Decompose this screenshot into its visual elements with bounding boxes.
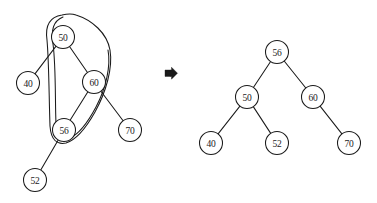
node-label: 50 — [58, 33, 68, 43]
tree-edge — [253, 107, 270, 134]
tree-node-40: 40 — [200, 132, 223, 155]
right-tree-nodes: 565060405270 — [200, 41, 361, 155]
tree-node-70: 70 — [338, 132, 361, 155]
right-tree: 565060405270 — [200, 41, 361, 155]
arrow-right-hollow-icon — [165, 67, 178, 79]
left-tree: 504060567052 — [17, 14, 142, 192]
tree-edge — [70, 92, 88, 121]
tree-node-60: 60 — [302, 86, 325, 109]
tree-node-50: 50 — [52, 26, 75, 49]
tree-edge — [35, 46, 56, 74]
tree-node-50: 50 — [236, 86, 259, 109]
tree-node-70: 70 — [119, 119, 142, 142]
node-label: 56 — [59, 126, 69, 136]
tree-node-60: 60 — [83, 71, 106, 94]
tree-edge — [41, 140, 58, 170]
tree-edge — [253, 62, 270, 88]
node-label: 52 — [272, 139, 282, 149]
node-label: 70 — [344, 139, 354, 149]
tree-edge — [70, 46, 88, 72]
tree-node-56: 56 — [53, 119, 76, 142]
node-label: 70 — [125, 126, 135, 136]
tree-edge — [101, 91, 123, 121]
left-tree-nodes: 504060567052 — [17, 26, 142, 192]
node-label: 56 — [272, 48, 282, 58]
tree-edge — [320, 106, 342, 134]
node-label: 52 — [30, 176, 40, 186]
tree-node-56: 56 — [266, 41, 289, 64]
diagram-canvas: 504060567052 565060405270 — [0, 0, 377, 203]
tree-node-40: 40 — [17, 72, 40, 95]
node-label: 40 — [206, 139, 216, 149]
node-label: 60 — [308, 93, 318, 103]
node-label: 50 — [242, 93, 252, 103]
node-label: 40 — [23, 79, 33, 89]
tree-edge — [218, 106, 240, 134]
bst-rotation-figure: 504060567052 565060405270 — [0, 0, 377, 203]
tree-node-52: 52 — [24, 169, 47, 192]
node-label: 60 — [89, 78, 99, 88]
tree-node-52: 52 — [266, 132, 289, 155]
tree-edge — [284, 61, 306, 88]
